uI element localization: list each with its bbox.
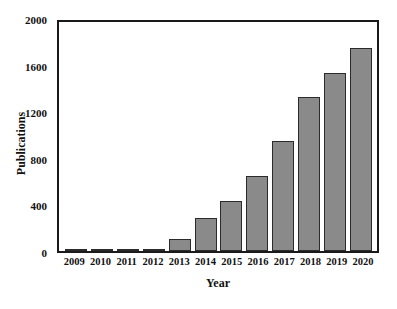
bar-slot — [115, 22, 141, 251]
x-tick-label: 2013 — [166, 256, 192, 267]
bar-2013 — [169, 239, 191, 251]
bar-2017 — [272, 141, 294, 251]
bar-2020 — [350, 48, 372, 251]
x-tick-label: 2011 — [114, 256, 140, 267]
bar-2018 — [298, 97, 320, 251]
x-tick-label: 2009 — [61, 256, 87, 267]
bar-2011 — [117, 249, 139, 251]
x-tick-label: 2014 — [192, 256, 218, 267]
bar-slot — [348, 22, 374, 251]
bar-2019 — [324, 73, 346, 251]
y-axis: 0400800120016002000 — [0, 0, 57, 273]
bar-2015 — [220, 201, 242, 251]
bar-slot — [219, 22, 245, 251]
x-tick-label: 2019 — [324, 256, 350, 267]
y-tick-label: 2000 — [25, 14, 47, 26]
x-tick-label: 2017 — [271, 256, 297, 267]
x-tick-label: 2016 — [245, 256, 271, 267]
bar-2014 — [195, 218, 217, 251]
bar-slot — [322, 22, 348, 251]
bar-2010 — [91, 249, 113, 251]
bar-slot — [141, 22, 167, 251]
x-tick-label: 2020 — [350, 256, 376, 267]
y-tick-label: 800 — [31, 154, 48, 166]
x-tick-label: 2012 — [140, 256, 166, 267]
bar-2016 — [246, 176, 268, 251]
x-axis-title: Year — [57, 276, 379, 291]
bar-slot — [167, 22, 193, 251]
x-tick-label: 2018 — [297, 256, 323, 267]
x-axis: 2009201020112012201320142015201620172018… — [57, 256, 379, 267]
plot-area — [57, 20, 379, 253]
bar-slot — [244, 22, 270, 251]
bar-slot — [193, 22, 219, 251]
y-tick-label: 1200 — [25, 107, 47, 119]
bar-slot — [270, 22, 296, 251]
publications-by-year-bar-chart: Publications 0400800120016002000 2009201… — [0, 0, 397, 309]
bar-slot — [296, 22, 322, 251]
x-tick-label: 2010 — [87, 256, 113, 267]
bar-slot — [63, 22, 89, 251]
bars-layer — [59, 22, 377, 251]
y-tick-label: 0 — [42, 247, 48, 259]
x-tick-label: 2015 — [219, 256, 245, 267]
y-tick-label: 1600 — [25, 61, 47, 73]
bar-2009 — [65, 249, 87, 251]
bar-slot — [89, 22, 115, 251]
bar-2012 — [143, 249, 165, 251]
y-tick-label: 400 — [31, 200, 48, 212]
